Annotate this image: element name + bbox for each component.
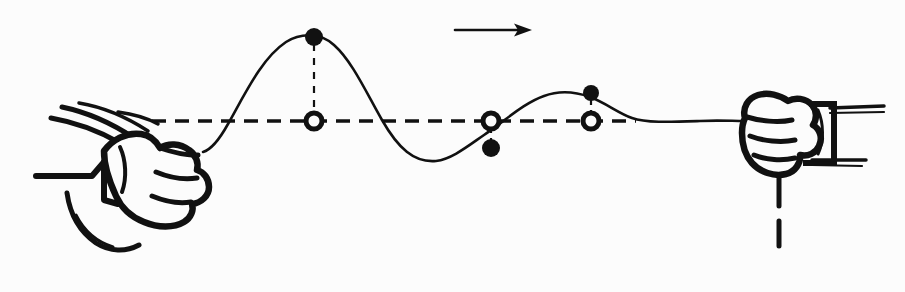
right-sleeve-line-4: [812, 165, 862, 166]
wave-on-rope-figure: Transverse wave pulse travelling along a…: [0, 0, 905, 292]
right-sleeve-line-1: [830, 106, 884, 108]
trough-displacement-marker: [482, 139, 500, 157]
figure-canvas: [0, 0, 905, 292]
crest-displacement-marker: [583, 85, 599, 101]
equilibrium-position-marker-hole: [312, 119, 317, 124]
equilibrium-position-marker-hole: [489, 119, 494, 124]
equilibrium-position-marker-hole: [589, 119, 594, 124]
crest-displacement-marker: [305, 28, 323, 46]
right-sleeve-line-2: [830, 112, 884, 113]
